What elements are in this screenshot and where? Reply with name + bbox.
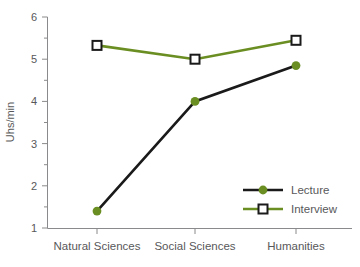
- y-axis-tick-labels: 6 5 4 3 2 1: [31, 11, 37, 234]
- x-tick-label-humanities: Humanities: [267, 240, 325, 252]
- chart-canvas: 6 5 4 3 2 1 Uhs/min Natural Sciences Soc…: [0, 0, 360, 267]
- interview-marker-social-sciences: [191, 55, 200, 64]
- legend-label-lecture: Lecture: [291, 184, 329, 196]
- y-axis-minor-ticks: [44, 38, 48, 207]
- y-tick-label-4: 4: [31, 95, 37, 107]
- series-lecture: [93, 61, 301, 215]
- legend-lecture-circle-icon: [259, 186, 268, 195]
- x-tick-label-social-sciences: Social Sciences: [154, 240, 235, 252]
- lecture-marker-natural-sciences: [93, 207, 102, 216]
- y-tick-label-3: 3: [31, 138, 37, 150]
- x-axis-ticks: [97, 229, 296, 235]
- y-tick-label-2: 2: [31, 180, 37, 192]
- legend-interview-square-icon: [259, 205, 268, 214]
- y-tick-label-1: 1: [31, 222, 37, 234]
- legend-label-interview: Interview: [291, 203, 338, 215]
- interview-marker-natural-sciences: [93, 41, 102, 50]
- line-chart: 6 5 4 3 2 1 Uhs/min Natural Sciences Soc…: [0, 0, 360, 267]
- x-axis-tick-labels: Natural Sciences Social Sciences Humanit…: [54, 240, 325, 252]
- legend-item-interview[interactable]: Interview: [243, 203, 338, 215]
- y-tick-label-5: 5: [31, 53, 37, 65]
- legend-item-lecture[interactable]: Lecture: [243, 184, 329, 196]
- lecture-marker-humanities: [292, 61, 301, 70]
- interview-marker-humanities: [292, 36, 301, 45]
- y-tick-label-6: 6: [31, 11, 37, 23]
- y-axis-title: Uhs/min: [4, 102, 16, 142]
- lecture-marker-social-sciences: [191, 97, 200, 106]
- series-interview: [93, 36, 301, 64]
- chart-legend: Lecture Interview: [243, 184, 338, 215]
- x-tick-label-natural-sciences: Natural Sciences: [54, 240, 141, 252]
